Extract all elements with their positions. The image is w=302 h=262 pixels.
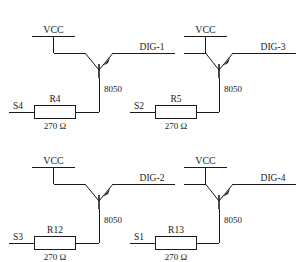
resistor-ref-r13: R13 [168, 225, 184, 235]
transistor-label-tl: 8050 [104, 84, 123, 94]
stage-bottom-right: VCC DIG-4 8050 R13 270 Ω S1 [130, 155, 296, 262]
transistor-label-br: 8050 [224, 215, 243, 225]
resistor-value-r13: 270 Ω [165, 252, 188, 262]
resistor-ref-r4: R4 [49, 94, 60, 104]
resistor-body-r4 [35, 106, 76, 119]
resistor-body-r12 [35, 237, 76, 250]
input-label-s2: S2 [134, 101, 144, 111]
vcc-label-bl: VCC [43, 155, 64, 166]
collector-lead-tl [85, 53, 99, 70]
resistor-ref-r5: R5 [170, 94, 181, 104]
resistor-value-r12: 270 Ω [44, 252, 67, 262]
stage-top-right: VCC DIG-3 8050 R5 270 Ω S2 [130, 24, 296, 131]
output-label-dig4: DIG-4 [261, 173, 286, 183]
resistor-value-r5: 270 Ω [165, 121, 188, 131]
collector-lead-bl [85, 184, 99, 201]
input-label-s1: S1 [134, 232, 144, 242]
emitter-lead-bl [99, 184, 113, 201]
emitter-arrow-tl [104, 58, 111, 66]
input-label-s4: S4 [13, 101, 23, 111]
resistor-ref-r12: R12 [47, 225, 63, 235]
stage-top-left: VCC DIG-1 8050 R4 270 Ω S4 [9, 24, 175, 131]
emitter-lead-br [219, 184, 233, 201]
resistor-value-r4: 270 Ω [44, 121, 67, 131]
collector-lead-br [206, 184, 220, 201]
emitter-lead-tl [99, 53, 113, 70]
output-label-dig3: DIG-3 [261, 42, 286, 52]
transistor-label-tr: 8050 [224, 84, 243, 94]
collector-lead-tr [206, 53, 220, 70]
resistor-body-r13 [156, 237, 197, 250]
schematic-canvas: VCC DIG-1 8050 R4 270 Ω S4 VCC [0, 0, 302, 262]
emitter-lead-tr [219, 53, 233, 70]
emitter-arrow-tr [224, 58, 231, 66]
output-label-dig1: DIG-1 [140, 42, 165, 52]
schematic-diagram: VCC DIG-1 8050 R4 270 Ω S4 VCC [0, 0, 302, 262]
input-label-s3: S3 [13, 232, 23, 242]
vcc-label-br: VCC [195, 155, 216, 166]
transistor-label-bl: 8050 [104, 215, 123, 225]
output-label-dig2: DIG-2 [140, 173, 165, 183]
emitter-arrow-br [224, 189, 231, 197]
stage-bottom-left: VCC DIG-2 8050 R12 270 Ω S3 [9, 155, 175, 262]
resistor-body-r5 [156, 106, 197, 119]
vcc-label-tr: VCC [195, 24, 216, 35]
vcc-label-tl: VCC [43, 24, 64, 35]
emitter-arrow-bl [104, 189, 111, 197]
